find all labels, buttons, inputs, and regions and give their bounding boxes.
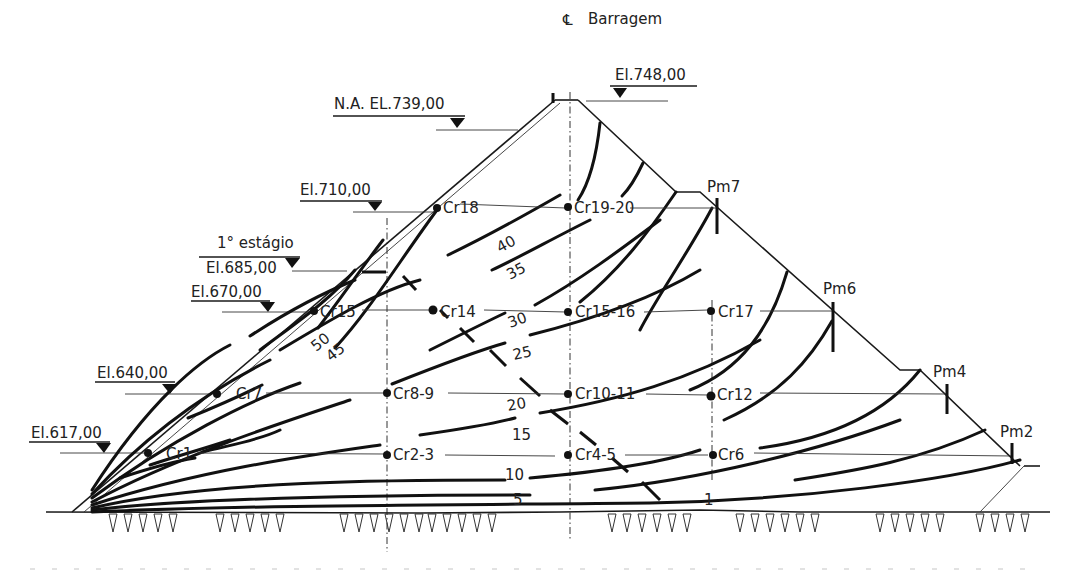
piezometer-point: [707, 307, 715, 315]
pile-icon: [400, 514, 408, 532]
piezometer-point: [564, 390, 572, 398]
elevation-triangle-icon: [613, 88, 627, 98]
pile-icon: [653, 514, 661, 532]
piezometer-point: [429, 306, 438, 315]
pile-icon: [231, 514, 239, 532]
pile-icon: [154, 514, 162, 532]
piezometer-label: Cr14: [440, 303, 476, 321]
surface-mark-label: Pm2: [1000, 423, 1033, 441]
pile-icon: [781, 514, 789, 532]
piezometer-label: Cr10-11: [575, 385, 635, 403]
pile-icon: [623, 514, 631, 532]
svg-text:El.748,00: El.748,00: [615, 66, 686, 84]
pile-icon: [261, 514, 269, 532]
piezometer-point: [213, 390, 221, 398]
pile-icon: [608, 514, 616, 532]
piezometer-point: [144, 449, 152, 457]
svg-text:El.670,00: El.670,00: [191, 283, 262, 301]
pile-icon: [488, 514, 496, 532]
cropped-caption: [0, 556, 1074, 573]
pile-icon: [415, 514, 423, 532]
equipotential-lines: [92, 123, 1020, 512]
pile-icon: [428, 514, 436, 532]
pile-icon: [385, 514, 393, 532]
pile-icon: [276, 514, 284, 532]
piezometer-label: Cr7: [236, 385, 262, 403]
dam-cross-section-diagram: ℄ Barragem El.748,00 N.A.: [0, 0, 1074, 573]
centerline-symbol: ℄: [562, 11, 573, 29]
piezometer-point: [310, 307, 318, 315]
pile-icon: [751, 514, 759, 532]
foundation: [46, 466, 1050, 513]
surface-mark-label: Pm4: [933, 363, 966, 381]
elevation-marker-748: El.748,00: [586, 66, 697, 101]
pile-icon: [876, 514, 884, 532]
piezometer-label: Cr17: [718, 303, 754, 321]
piezometer-point: [564, 203, 572, 211]
svg-text:El.617,00: El.617,00: [31, 424, 102, 442]
pile-icon: [246, 514, 254, 532]
pile-icon: [906, 514, 914, 532]
piezometer-label: Cr2-3: [393, 446, 434, 464]
pile-icon: [169, 514, 177, 532]
svg-text:15: 15: [512, 426, 531, 444]
pile-icon: [811, 514, 819, 532]
centerline-label: Barragem: [588, 10, 662, 28]
surface-mark-label: Pm7: [707, 178, 740, 196]
piezometer-label: Cr4-5: [575, 446, 616, 464]
piezometer-label: Cr15-16: [575, 303, 635, 321]
elevation-triangle-icon: [368, 202, 382, 211]
svg-text:N.A. EL.739,00: N.A. EL.739,00: [334, 95, 445, 113]
pile-icon: [976, 514, 984, 532]
pile-icon: [668, 514, 676, 532]
pile-icon: [736, 514, 744, 532]
elevation-triangle-icon: [260, 302, 275, 312]
cropped-caption-fragments: [30, 568, 1040, 570]
piezometer-label: Cr15: [320, 303, 356, 321]
piezometer-point: [564, 451, 572, 459]
elevation-marker-685: 1° estágio El.685,00: [199, 234, 347, 277]
piezometer-point: [709, 451, 717, 459]
svg-text:5: 5: [513, 491, 523, 509]
svg-text:1° estágio: 1° estágio: [217, 234, 294, 252]
pile-icon: [766, 514, 774, 532]
elevation-triangle-icon: [96, 443, 111, 453]
svg-text:40: 40: [493, 232, 518, 257]
piezometer-label: Cr6: [718, 446, 744, 464]
pile-icon: [1021, 514, 1029, 532]
elevation-triangle-icon: [450, 118, 465, 128]
pile-icon: [355, 514, 363, 532]
pile-icon: [340, 514, 348, 532]
svg-text:El.685,00: El.685,00: [206, 259, 277, 277]
piezometer-point: [707, 392, 716, 401]
piezometer-point: [564, 308, 572, 316]
svg-text:El.640,00: El.640,00: [97, 364, 168, 382]
elevation-triangle-icon: [285, 258, 300, 268]
pile-icon: [891, 514, 899, 532]
pile-icon: [921, 514, 929, 532]
pile-icon: [1006, 514, 1014, 532]
pile-icon: [936, 514, 944, 532]
svg-text:1: 1: [704, 491, 714, 509]
surface-mark-label: Pm6: [823, 280, 856, 298]
piezometer-label: Cr18: [443, 199, 479, 217]
piezometer-label: Cr8-9: [393, 385, 434, 403]
elevation-marker-na-739: N.A. EL.739,00: [333, 95, 518, 130]
pile-icon: [109, 514, 117, 532]
surface-marks: Pm7 Pm6 Pm4 Pm2: [707, 178, 1033, 464]
pile-icon: [683, 514, 691, 532]
svg-text:30: 30: [505, 308, 529, 331]
svg-text:10: 10: [505, 466, 524, 484]
piezometer-point: [383, 451, 391, 459]
piezometer-point: [433, 204, 441, 212]
pile-icon: [216, 514, 224, 532]
pile-icon: [124, 514, 132, 532]
pile-icon: [370, 514, 378, 532]
pile-icon: [991, 514, 999, 532]
svg-text:El.710,00: El.710,00: [300, 181, 371, 199]
elevation-marker-710: El.710,00: [300, 181, 434, 212]
pile-icon: [473, 514, 481, 532]
piezometer-label: Cr12: [717, 386, 753, 404]
piezometer-label: Cr1: [166, 445, 192, 463]
piezometer-label: Cr19-20: [574, 199, 634, 217]
